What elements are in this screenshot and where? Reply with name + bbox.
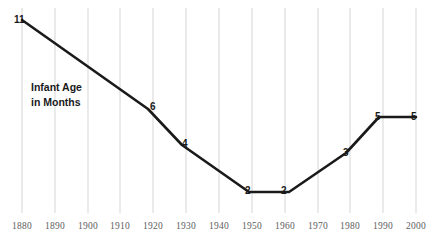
series-annotation-label: Infant Age in Months — [31, 80, 82, 110]
annotation-line-2: in Months — [31, 95, 82, 110]
gridlines — [22, 8, 416, 213]
x-tick-label-1920: 1920 — [143, 222, 163, 232]
x-tick-label-1980: 1980 — [340, 222, 360, 232]
x-tick-label-1950: 1950 — [242, 222, 262, 232]
x-tick-label-1970: 1970 — [308, 222, 328, 232]
annotation-line-1: Infant Age — [31, 80, 82, 95]
x-tick-label-1890: 1890 — [45, 222, 65, 232]
data-point-label-2000: 5 — [411, 112, 417, 122]
data-point-label-1930: 4 — [182, 139, 188, 149]
line-chart: 1880189019001910192019301940195019601970… — [0, 0, 436, 243]
x-tick-label-1900: 1900 — [78, 222, 98, 232]
x-tick-label-1930: 1930 — [176, 222, 196, 232]
chart-plot-area — [0, 0, 436, 243]
x-tick-label-2000: 2000 — [406, 222, 426, 232]
x-tick-label-1990: 1990 — [373, 222, 393, 232]
data-point-label-1990: 5 — [375, 112, 381, 122]
data-point-label-1880: 11 — [14, 15, 25, 25]
x-tick-label-1940: 1940 — [209, 222, 229, 232]
data-point-label-1920: 6 — [150, 102, 156, 112]
data-point-label-1950: 2 — [245, 186, 251, 196]
x-tick-label-1960: 1960 — [275, 222, 295, 232]
data-point-label-1980: 3 — [343, 148, 349, 158]
data-point-label-1960: 2 — [281, 186, 287, 196]
x-tick-label-1910: 1910 — [110, 222, 130, 232]
x-tick-label-1880: 1880 — [12, 222, 32, 232]
